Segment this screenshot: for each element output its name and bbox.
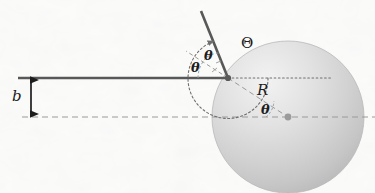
sphere-center-dot (285, 114, 292, 121)
scattering-angle-label: Θ (241, 36, 253, 51)
impact-parameter-label: b (12, 89, 22, 104)
reflection-angle-label: θ (204, 49, 213, 62)
impact-point-dot (225, 75, 231, 81)
center-angle-label: θ (261, 103, 270, 116)
scattering-diagram-canvas (0, 0, 375, 193)
sphere-radius-label: R (257, 83, 268, 98)
incidence-angle-label: θ (191, 61, 200, 74)
scattering-figure: b θ θ Θ R θ (0, 0, 375, 193)
